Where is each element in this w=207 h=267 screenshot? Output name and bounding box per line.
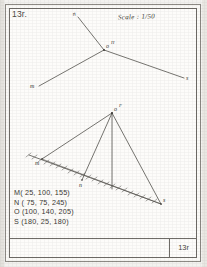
segment-on: [78, 17, 104, 50]
point-s-lower: [160, 203, 162, 205]
point-m-lower: [41, 158, 43, 160]
coordinate-item-o: O (100, 140, 205): [14, 207, 74, 217]
label-n-upper: n: [72, 10, 76, 16]
segment-o-s-lower: [112, 113, 161, 204]
exercise-number-bottom: 13r: [178, 243, 189, 252]
point-o-upper: [103, 49, 105, 51]
scan-edge-right: [202, 0, 207, 267]
label-o-lower: o: [114, 106, 117, 112]
label-h-upper: H: [110, 40, 115, 45]
label-m-lower: m: [35, 160, 40, 166]
label-s-upper: s: [186, 75, 189, 81]
label-o-upper: o: [106, 43, 109, 49]
label-n-lower: n: [79, 182, 82, 188]
segment-os: [104, 50, 184, 78]
coordinate-item-n: N ( 75, 75, 245): [14, 198, 74, 208]
label-s-lower: s: [163, 197, 166, 203]
label-m-upper: m: [30, 83, 35, 89]
drawing-sheet: 13r. Scale : 1/50 .ln { stroke:#4a4843; …: [0, 0, 207, 267]
coordinate-list: M( 25, 100, 155) N ( 75, 75, 245) O (100…: [14, 188, 74, 226]
upper-diagram-group: n o H m s: [30, 10, 189, 89]
segment-om: [39, 50, 104, 86]
coordinate-item-s: S (180, 25, 180): [14, 217, 74, 227]
label-f-lower: F: [118, 103, 122, 108]
title-block: 13r: [9, 238, 197, 258]
point-n-lower: [81, 179, 83, 181]
coordinate-item-m: M( 25, 100, 155): [14, 188, 74, 198]
point-o-lower: [111, 112, 113, 114]
scan-edge-left: [0, 0, 4, 267]
